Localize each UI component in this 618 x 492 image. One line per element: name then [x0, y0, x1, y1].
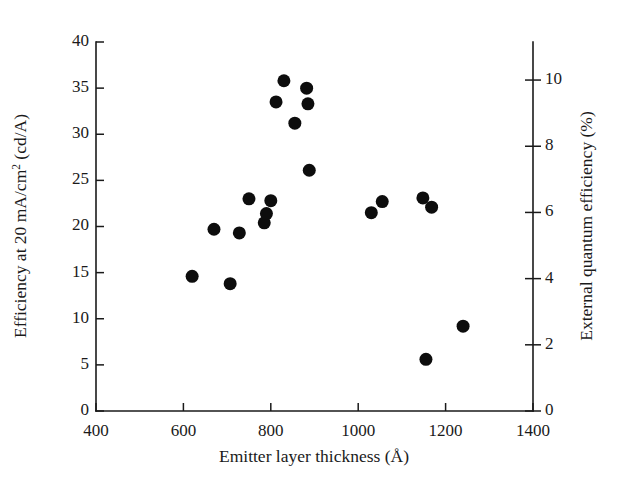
x-tick-label: 1400	[516, 421, 550, 440]
y-tick-label: 25	[72, 169, 89, 188]
data-point	[186, 270, 199, 283]
y-tick-label: 35	[72, 77, 89, 96]
data-point	[365, 206, 378, 219]
y2-tick-label: 0	[545, 400, 554, 419]
data-point	[260, 207, 273, 220]
data-point	[224, 277, 237, 290]
y2-tick-label: 2	[545, 334, 554, 353]
x-tick-label: 1200	[429, 421, 463, 440]
data-point	[233, 226, 246, 239]
data-point	[277, 74, 290, 87]
y2-ticklabel-group: 0246810	[545, 69, 562, 419]
y2-tick-label: 6	[545, 201, 554, 220]
x-tick-label: 800	[258, 421, 284, 440]
data-point	[270, 95, 283, 108]
data-point-group	[186, 74, 470, 366]
y2-axis-title: External quantum efficiency (%)	[576, 111, 596, 341]
x-tick-group	[96, 403, 533, 411]
data-point	[242, 192, 255, 205]
y2-tick-label: 10	[545, 69, 562, 88]
data-point	[376, 195, 389, 208]
y2-tick-label: 8	[545, 135, 554, 154]
data-point	[301, 97, 314, 110]
x-axis-title: Emitter layer thickness (Å)	[219, 446, 409, 466]
data-point	[457, 320, 470, 333]
y-ticklabel-group: 0510152025303540	[72, 31, 89, 419]
y-axis-title-unit: (cd/A)	[10, 114, 30, 164]
y2-tick-label: 4	[545, 268, 554, 287]
x-tick-label: 1000	[341, 421, 375, 440]
x-ticklabel-group: 400600800100012001400	[83, 421, 550, 440]
data-point	[419, 353, 432, 366]
axes-group	[96, 42, 533, 411]
data-point	[207, 223, 220, 236]
y-tick-label: 40	[72, 31, 89, 50]
y-tick-label: 15	[72, 262, 89, 281]
chart-canvas: 400600800100012001400 0510152025303540 0…	[0, 0, 618, 492]
y-tick-label: 20	[72, 215, 89, 234]
y-tick-label: 10	[72, 308, 89, 327]
y-tick-label: 5	[81, 354, 90, 373]
y-tick-label: 30	[72, 123, 89, 142]
data-point	[300, 82, 313, 95]
y-axis-title-main: Efficiency at 20 mA/cm	[10, 169, 30, 338]
scatter-plot-figure: 400600800100012001400 0510152025303540 0…	[0, 0, 618, 492]
y-tick-group	[96, 42, 104, 411]
data-point	[288, 117, 301, 130]
y-tick-label: 0	[81, 400, 90, 419]
x-tick-label: 400	[83, 421, 109, 440]
data-point	[303, 164, 316, 177]
data-point	[425, 201, 438, 214]
x-tick-label: 600	[171, 421, 197, 440]
data-point	[264, 194, 277, 207]
y-axis-title: Efficiency at 20 mA/cm2 (cd/A)	[10, 114, 30, 338]
